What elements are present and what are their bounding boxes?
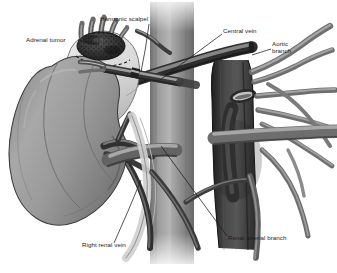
label-renal-arterial-branch: Renal arterial branch: [228, 234, 287, 241]
aortic-branches: [252, 25, 336, 166]
label-harmonic-scalpel: Harmonic scalpel: [100, 15, 148, 22]
aorta: [210, 60, 262, 250]
label-right-renal-vein: Right renal vein: [82, 241, 126, 248]
label-central-vein: Central vein: [223, 27, 257, 34]
label-aortic-branch: Aortic branch: [272, 40, 291, 54]
label-adrenal-tumor: Adrenal tumor: [26, 36, 66, 43]
surgical-illustration-figure: Adrenal tumor Harmonic scalpel Central v…: [0, 0, 337, 273]
